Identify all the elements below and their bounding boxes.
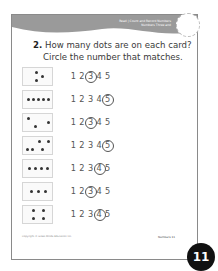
- dot-icon: [41, 148, 44, 151]
- dot-icon: [35, 79, 38, 82]
- choice-5-circled[interactable]: 5: [103, 94, 112, 105]
- header-band: Read | Count and Record Numbers Numbers …: [12, 15, 197, 41]
- dot-icon: [32, 98, 35, 101]
- dot-icon: [37, 190, 40, 193]
- choice-2[interactable]: 2: [78, 209, 87, 220]
- worksheet-page: Read | Count and Record Numbers Numbers …: [11, 14, 198, 260]
- dot-card: [22, 90, 53, 109]
- footer-section: Numbers 11: [158, 235, 175, 239]
- choice-5[interactable]: 5: [103, 163, 112, 174]
- dot-icon: [37, 98, 40, 101]
- number-choices: 1 2 3 4 5: [69, 94, 112, 105]
- dot-icon: [32, 209, 35, 212]
- choice-4[interactable]: 4: [95, 71, 104, 82]
- choice-3-circled[interactable]: 3: [86, 117, 95, 128]
- header-subtitle-line2: Numbers Three and: [119, 23, 171, 27]
- dot-icon: [41, 75, 44, 78]
- dot-icon: [31, 148, 34, 151]
- dot-icon: [35, 71, 38, 74]
- choice-1[interactable]: 1: [69, 209, 78, 220]
- number-choices: 1 2 3 4 5: [69, 140, 112, 151]
- dot-icon: [40, 167, 43, 170]
- number-choices: 1 2 3 4 5: [69, 209, 112, 220]
- choice-3-circled[interactable]: 3: [86, 186, 95, 197]
- question-line2: Circle the number that matches.: [33, 51, 193, 63]
- lesson-label: Read: [119, 19, 127, 23]
- choice-2[interactable]: 2: [78, 140, 87, 151]
- page-number-badge: 11: [187, 243, 215, 271]
- dot-icon: [46, 167, 49, 170]
- number-choices: 1 2 3 4 5: [69, 117, 112, 128]
- dot-icon: [42, 217, 45, 220]
- dot-icon: [27, 98, 30, 101]
- choice-1[interactable]: 1: [69, 71, 78, 82]
- dot-icon: [47, 140, 50, 143]
- choice-5-circled[interactable]: 5: [103, 140, 112, 151]
- dot-icon: [34, 125, 37, 128]
- question-number: 2.: [33, 40, 42, 50]
- dot-icon: [30, 190, 33, 193]
- choice-1[interactable]: 1: [69, 140, 78, 151]
- dot-card: [22, 182, 53, 201]
- number-choices: 1 2 3 4 5: [69, 186, 112, 197]
- choice-1[interactable]: 1: [69, 117, 78, 128]
- choice-5[interactable]: 5: [103, 117, 112, 128]
- choice-1[interactable]: 1: [69, 163, 78, 174]
- number-choices: 1 2 3 4 5: [69, 71, 112, 82]
- dot-card: [22, 159, 53, 178]
- number-choices: 1 2 3 4 5: [69, 163, 112, 174]
- choice-4[interactable]: 4: [95, 117, 104, 128]
- sticker-circle-icon: [176, 13, 200, 37]
- choice-1[interactable]: 1: [69, 94, 78, 105]
- dot-icon: [32, 217, 35, 220]
- choice-1[interactable]: 1: [69, 186, 78, 197]
- dot-icon: [42, 98, 45, 101]
- dot-card: [22, 205, 53, 224]
- choice-4[interactable]: 4: [95, 186, 104, 197]
- dot-card: [22, 113, 53, 132]
- dot-icon: [42, 209, 45, 212]
- choice-3[interactable]: 3: [86, 140, 95, 151]
- copyright-text: Copyright © Great Minds Education Inc.: [22, 235, 72, 238]
- question-line1: How many dots are on each card?: [45, 40, 192, 50]
- dot-icon: [27, 117, 30, 120]
- dot-icon: [34, 167, 37, 170]
- question: 2. How many dots are on each card? Circl…: [33, 39, 193, 63]
- section-label: Numbers: [158, 235, 171, 239]
- dot-icon: [44, 190, 47, 193]
- dot-icon: [47, 121, 50, 124]
- dot-card: [22, 136, 53, 155]
- choice-5[interactable]: 5: [103, 209, 112, 220]
- choice-2[interactable]: 2: [78, 94, 87, 105]
- choice-5[interactable]: 5: [103, 71, 112, 82]
- dot-icon: [47, 98, 50, 101]
- dot-icon: [28, 167, 31, 170]
- page-number-small: 11: [172, 235, 176, 239]
- choice-5[interactable]: 5: [103, 186, 112, 197]
- choice-4-circled[interactable]: 4: [95, 163, 104, 174]
- choice-2[interactable]: 2: [78, 163, 87, 174]
- choice-3-circled[interactable]: 3: [86, 71, 95, 82]
- dot-card: [22, 67, 53, 86]
- choice-4-circled[interactable]: 4: [95, 209, 104, 220]
- header-text: Read | Count and Record Numbers Numbers …: [119, 19, 171, 27]
- dot-icon: [26, 148, 29, 151]
- choice-3[interactable]: 3: [86, 94, 95, 105]
- dot-icon: [38, 140, 41, 143]
